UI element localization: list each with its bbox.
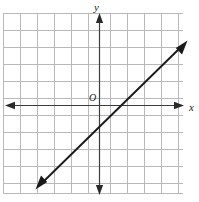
y-axis	[96, 13, 103, 195]
x-axis-arrow-left	[5, 102, 15, 109]
graph-canvas: y x O	[0, 0, 199, 202]
y-axis-arrow-up	[96, 13, 103, 23]
coordinate-plane-figure: y x O	[0, 0, 199, 202]
x-axis-label: x	[188, 101, 194, 113]
grid-lines	[3, 13, 183, 194]
origin-label: O	[89, 92, 96, 103]
line-arrow-upper-right	[176, 41, 188, 55]
y-axis-label: y	[93, 1, 99, 13]
